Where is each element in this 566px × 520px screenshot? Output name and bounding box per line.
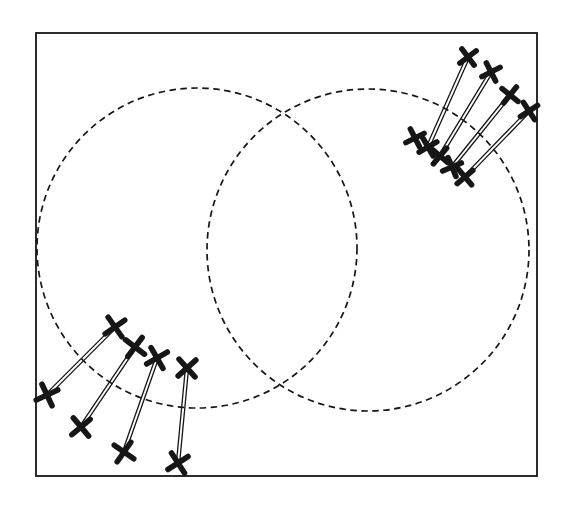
- figure-page: [0, 0, 566, 520]
- venn-motion-figure: [0, 0, 566, 520]
